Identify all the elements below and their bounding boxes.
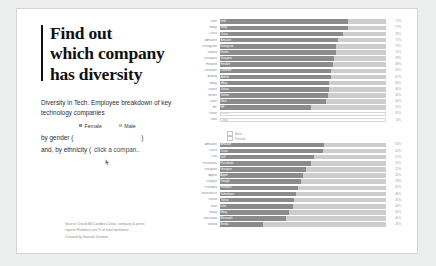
- chart-row[interactable]: NvidiaNvidia26%: [189, 222, 401, 228]
- chart-row[interactable]: LinkedInLinkedIn67%: [189, 68, 401, 74]
- chart-row[interactable]: CiscoCisco74%: [189, 31, 401, 37]
- chart-row-track[interactable]: Dell: [220, 155, 387, 160]
- chart-row-inline-label: Hewlett: [221, 62, 231, 67]
- chart-row[interactable]: PandoraPandora47%: [189, 185, 401, 191]
- chart-row[interactable]: CiscoCisco62%: [189, 148, 401, 154]
- chart-row-track[interactable]: Yahoo: [220, 198, 387, 203]
- chart-row-inline-label: Airbnb: [221, 75, 229, 80]
- chart-row-track[interactable]: LinkedIn: [220, 69, 387, 74]
- chart-row-fill: [220, 75, 332, 80]
- chart-row-track[interactable]: Amazon: [220, 38, 387, 43]
- chart-row-track[interactable]: Nvidia: [220, 222, 387, 227]
- chart-row-value: 50%: [386, 174, 401, 177]
- chart-row-label: Nvidia: [189, 223, 220, 226]
- chart-row-track[interactable]: Intel: [220, 19, 387, 24]
- chart-row-track[interactable]: Amazon: [220, 143, 387, 148]
- chart-row-value: 49%: [386, 180, 401, 183]
- chart-row[interactable]: TotalTotal13%: [189, 117, 401, 123]
- chart-row[interactable]: DellDell57%: [189, 154, 401, 160]
- chart-row[interactable]: AirbnbAirbnb67%: [189, 74, 401, 80]
- ethnicity-bar-chart[interactable]: MaleFemaleAmazonAmazon63%CiscoCisco62%De…: [189, 131, 401, 227]
- chart-row[interactable]: FacebookFacebook55%: [189, 161, 401, 167]
- chart-row[interactable]: YahooYahoo66%: [189, 87, 401, 93]
- chart-row[interactable]: GrouponGroupon52%: [189, 167, 401, 173]
- chart-row[interactable]: AmazonAmazon63%: [189, 142, 401, 148]
- chart-row-track[interactable]: Twitter: [220, 93, 387, 98]
- chart-row-inline-label: Microsoft: [221, 216, 233, 221]
- chart-row-value: 63%: [386, 143, 401, 146]
- chart-row-track[interactable]: Nvidia: [220, 50, 387, 55]
- source-credit: Source: David McCandless Data: company &…: [65, 221, 207, 240]
- chart-row[interactable]: EbayEbay77%: [189, 25, 401, 31]
- chart-row-track[interactable]: Airbnb: [220, 75, 387, 80]
- chart-row-fill: [220, 87, 330, 92]
- chart-row-track[interactable]: Total: [220, 118, 387, 123]
- chart-row[interactable]: TwitterTwitter65%: [189, 93, 401, 99]
- chart-row[interactable]: InstagramInstagram70%: [189, 44, 401, 50]
- chart-row-track[interactable]: Hewlett: [220, 62, 387, 67]
- chart-row-value: 62%: [386, 150, 401, 153]
- chart-row[interactable]: UberUber64%: [189, 99, 401, 105]
- chart-row-track[interactable]: Intel: [220, 204, 387, 209]
- chart-row-track[interactable]: HP: [220, 105, 387, 110]
- chart-row[interactable]: SalesforceSalesforce46%: [189, 191, 401, 197]
- chart-row[interactable]: MicrosoftMicrosoft40%: [189, 216, 401, 222]
- chart-row-track[interactable]: Pandora: [220, 186, 387, 191]
- page-title: Find out which company has diversity: [41, 23, 181, 84]
- chart-row-track[interactable]: Microsoft: [220, 216, 387, 221]
- gender-control-row[interactable]: by gender ( ): [41, 134, 181, 141]
- chart-row-label: Hewlett: [189, 63, 220, 66]
- chart-row-fill: [220, 105, 312, 110]
- chart-row-track[interactable]: Apple: [220, 173, 387, 178]
- chart-row-track[interactable]: Groupon: [220, 56, 387, 61]
- ethnicity-control-row[interactable]: and, by ethnicity ( click a compan..: [41, 146, 181, 153]
- chart-row[interactable]: IntelIntel44%: [189, 203, 401, 209]
- chart-row-label: LinkedIn: [189, 69, 220, 72]
- chart-row-label: Twitter: [189, 94, 220, 97]
- chart-row[interactable]: eBayeBay66%: [189, 80, 401, 86]
- chart-row-label: Amazon: [189, 39, 220, 42]
- female-swatch-icon: [79, 124, 82, 127]
- gender-dropzone[interactable]: [76, 134, 138, 141]
- infographic-card: Find out which company has diversity Div…: [16, 8, 418, 254]
- chart-row[interactable]: HewlettHewlett68%: [189, 62, 401, 68]
- gender-bar-chart[interactable]: IntelIntel77%EbayEbay77%CiscoCisco74%Ama…: [189, 19, 401, 123]
- chart-row-track[interactable]: Other: [220, 112, 387, 117]
- chart-row-label: Intel: [189, 205, 220, 208]
- chart-row[interactable]: HPHP55%: [189, 105, 401, 111]
- chart-row-track[interactable]: Salesforce: [220, 192, 387, 197]
- chart-row-track[interactable]: Google: [220, 179, 387, 184]
- chart-row[interactable]: AmazonAmazon71%: [189, 37, 401, 43]
- chart-row-track[interactable]: Yahoo: [220, 87, 387, 92]
- chart-row[interactable]: IntelIntel77%: [189, 19, 401, 25]
- chart-row-track[interactable]: Ebay: [220, 210, 387, 215]
- chart-row-track[interactable]: eBay: [220, 81, 387, 86]
- left-panel: Find out which company has diversity Div…: [41, 23, 181, 243]
- chart-row[interactable]: GrouponGroupon69%: [189, 56, 401, 62]
- chart-row-value: 70%: [386, 51, 401, 54]
- chart-row[interactable]: OtherOther95%: [189, 111, 401, 117]
- chart-row-track[interactable]: Uber: [220, 99, 387, 104]
- chart-row-fill: [220, 149, 323, 154]
- chart-row-label: Dell: [189, 155, 220, 158]
- chart-row[interactable]: NvidiaNvidia70%: [189, 50, 401, 56]
- chart-row[interactable]: GoogleGoogle49%: [189, 179, 401, 185]
- mini-legend-item: Male: [227, 131, 401, 136]
- chart-row-track[interactable]: Cisco: [220, 149, 387, 154]
- chart-row-track[interactable]: Cisco: [220, 32, 387, 37]
- chart-row-track[interactable]: Ebay: [220, 26, 387, 31]
- chart-row-fill: [220, 99, 327, 104]
- chart-row-fill: [220, 32, 343, 37]
- chart-row[interactable]: YahooYahoo45%: [189, 197, 401, 203]
- chart-row[interactable]: AppleApple50%: [189, 173, 401, 179]
- chart-row-track[interactable]: Instagram: [220, 44, 387, 49]
- chart-row-inline-label: Other: [222, 113, 229, 116]
- chart-row-track[interactable]: Groupon: [220, 167, 387, 172]
- chart-row-track[interactable]: Facebook: [220, 161, 387, 166]
- chart-row[interactable]: EbayEbay42%: [189, 210, 401, 216]
- chart-row-label: Microsoft: [189, 217, 220, 220]
- legend-label-male: Male: [124, 123, 135, 129]
- chart-row-inline-label: Intel: [221, 204, 226, 209]
- chart-row-label: Apple: [189, 174, 220, 177]
- chart-row-value: 47%: [386, 186, 401, 189]
